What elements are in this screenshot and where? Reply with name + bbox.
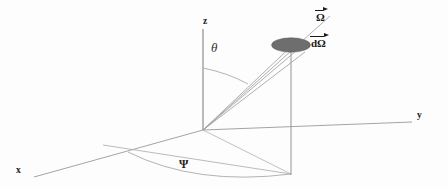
cone-ray-lower-edge bbox=[203, 52, 305, 130]
cone-ray-axis bbox=[203, 45, 303, 130]
d-omega-vector-accent: dΩ bbox=[311, 35, 326, 49]
z-axis-label: z bbox=[203, 17, 207, 27]
y-axis-line bbox=[203, 122, 412, 130]
vector-overline-icon bbox=[310, 36, 324, 37]
cone-ray-top-edge bbox=[203, 39, 299, 130]
theta-angle-label: θ bbox=[211, 41, 217, 54]
psi-arc bbox=[128, 152, 291, 177]
d-omega-glyph: dΩ bbox=[311, 37, 326, 49]
vector-overline-icon bbox=[315, 10, 323, 11]
d-omega-vector-label: dΩ bbox=[311, 34, 326, 50]
psi-angle-label: Ψ bbox=[179, 158, 188, 170]
y-axis-label: y bbox=[417, 111, 422, 121]
vector-arrowhead-icon bbox=[324, 33, 329, 37]
omega-vector-accent: Ω bbox=[316, 9, 325, 23]
diagram-canvas bbox=[0, 0, 448, 188]
vector-arrowhead-icon bbox=[323, 7, 328, 11]
omega-glyph: Ω bbox=[316, 11, 325, 23]
solid-angle-disk bbox=[272, 38, 311, 52]
omega-vector-label: Ω bbox=[316, 8, 325, 24]
theta-arc bbox=[203, 68, 248, 84]
x-axis-label: x bbox=[16, 166, 21, 176]
solid-angle-diagram: z y x θ Ψ Ω dΩ bbox=[0, 0, 448, 188]
